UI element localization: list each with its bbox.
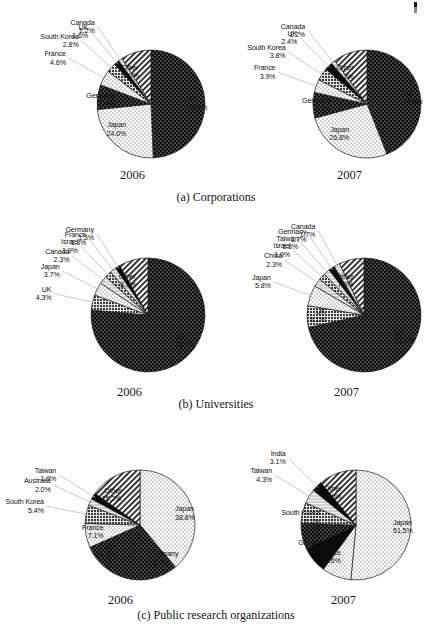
- row-caption: (c) Public research organizations: [0, 608, 432, 623]
- pie-chart-panel: US76.5%UK4.3%Japan3.7%Canada2.3%Israel1.…: [0, 205, 216, 425]
- slice-label-pct: 5.4%: [28, 507, 44, 515]
- slice-label-pct: 15.2%: [102, 495, 122, 503]
- pie-slice-label: Other8.3%: [0, 273, 136, 290]
- pie-slice-label: Germany7.7%: [216, 97, 331, 114]
- slice-label-pct: 6.1%: [310, 316, 326, 324]
- pie-slice-label: Germany7.9%: [216, 539, 327, 556]
- pie-chart-panel: US44.0%Japan26.8%Germany7.7%France3.9%So…: [216, 0, 432, 205]
- slice-label-pct: 8.3%: [120, 281, 136, 289]
- slice-label-pct: 4.3%: [256, 476, 272, 484]
- slice-label-pct: 4.3%: [36, 294, 52, 302]
- slice-label-pct: 8.6%: [325, 557, 341, 565]
- leader-line: [309, 236, 332, 270]
- slice-label-name: Germany: [65, 226, 93, 234]
- row-caption: (a) Corporations: [0, 190, 432, 205]
- slice-label-pct: 13.7%: [95, 551, 115, 559]
- panel-year-label: 2006: [120, 168, 145, 183]
- slice-label-name: Canada: [291, 223, 315, 231]
- pie-slice-label: South Korea6.1%: [216, 509, 320, 526]
- slice-label-pct: 3.1%: [270, 458, 286, 466]
- slice-label-pct: 76.5%: [175, 341, 195, 349]
- pie-slice-label: Other15.2%: [0, 487, 121, 504]
- slice-label-name: UK: [316, 308, 326, 316]
- slice-label-pct: 1.2%: [289, 31, 305, 39]
- slice-label-name: Taiwan: [251, 467, 272, 475]
- slice-label-name: Germany: [86, 92, 114, 100]
- leader-line: [301, 243, 328, 274]
- slice-label-name: Taiwan: [35, 467, 56, 475]
- chart-row: US76.5%UK4.3%Japan3.7%Canada2.3%Israel1.…: [0, 205, 432, 425]
- panel-year-label: 2006: [108, 593, 133, 608]
- slice-label-pct: 2.3%: [54, 256, 70, 264]
- slice-label-pct: 1.2%: [79, 27, 95, 35]
- slice-label-pct: 2.3%: [266, 261, 282, 269]
- slice-label-pct: 44.0%: [403, 98, 423, 106]
- pie-slice-label: Canada1.2%: [0, 19, 95, 36]
- slice-label-pct: 51.5%: [393, 527, 413, 535]
- slice-label-pct: 26.8%: [329, 134, 349, 142]
- slice-label-pct: 10.2%: [334, 73, 354, 81]
- slice-label-name: India: [271, 450, 286, 458]
- pie-slice-label: India3.1%: [216, 450, 286, 467]
- pie-slice-label: UK6.1%: [216, 308, 326, 325]
- pie-slice-label: Other9.0%: [0, 64, 139, 81]
- slice-label-name: France: [44, 50, 65, 58]
- slice-label-name: US: [403, 90, 413, 98]
- slice-label-name: US: [395, 329, 405, 337]
- pie-slice-label: Japan51.5%: [393, 519, 413, 536]
- pie-slice-label: Taiwan1.9%: [0, 467, 56, 484]
- leader-line: [54, 294, 94, 303]
- slice-label-pct: 7.0%: [337, 281, 353, 289]
- slice-label-name: Other: [104, 487, 121, 495]
- pie-slice-label: US44.0%: [403, 90, 423, 107]
- slice-label-pct: 15.7%: [150, 559, 170, 567]
- slice-label-pct: 11.0%: [322, 493, 341, 501]
- slice-label-pct: 7.9%: [311, 547, 327, 555]
- pie-slice-label: US49.3%: [187, 95, 207, 112]
- pie-chart-panel: Japan51.5%France8.6%Germany7.9%US7.5%Sou…: [216, 425, 432, 630]
- panel-year-label: 2007: [331, 593, 356, 608]
- slice-label-pct: 7.7%: [315, 105, 331, 113]
- figure-page: US49.3%Japan24.0%Germany7.4%France4.6%So…: [0, 0, 432, 630]
- pie-slice-label: Canada1.7%: [216, 223, 315, 240]
- pie-slice-label: US71.0%: [395, 329, 415, 346]
- pie-slice-label: Japan26.8%: [216, 126, 349, 143]
- pie-slice-label: Germany7.4%: [0, 92, 115, 109]
- slice-label-name: Other: [121, 64, 138, 72]
- row-caption: (b) Universities: [0, 397, 432, 412]
- slice-label-name: Japan: [330, 126, 349, 134]
- pie-slice-label: South Korea3.8%: [216, 44, 286, 61]
- slice-label-name: Other: [119, 273, 136, 281]
- slice-label-pct: 1.3%: [78, 234, 94, 242]
- slice-label-name: Canada: [70, 19, 94, 27]
- slice-label-pct: 71.0%: [395, 337, 415, 345]
- slice-label-pct: 3.8%: [270, 52, 286, 60]
- slice-label-name: Germany: [302, 97, 330, 105]
- pie-slice-label: US13.7%: [0, 543, 114, 560]
- slice-label-pct: 38.8%: [175, 514, 195, 522]
- slice-label-pct: 1.7%: [299, 231, 315, 239]
- slice-label-name: Canada: [281, 23, 305, 31]
- pie-slice-label: US76.5%: [175, 333, 195, 350]
- slice-label-pct: 24.0%: [106, 130, 126, 138]
- slice-label-pct: 7.4%: [99, 100, 115, 108]
- slice-label-pct: 1.9%: [62, 247, 78, 255]
- pie-slice-label: Germany1.3%: [0, 226, 94, 243]
- slice-label-pct: 9.0%: [123, 72, 139, 80]
- slice-label-pct: 2.8%: [63, 41, 79, 49]
- pie-slice-label: Other10.2%: [216, 64, 353, 81]
- pie-slice-label: Japan38.8%: [175, 505, 195, 522]
- slice-label-name: France: [82, 524, 103, 532]
- leader-line: [47, 506, 88, 514]
- pie-slice-label: Other11.0%: [216, 485, 341, 502]
- pie-chart-panel: US71.0%UK6.1%Japan5.8%China2.3%Israel1.9…: [216, 205, 432, 425]
- slice-label-pct: 1.9%: [274, 251, 290, 259]
- leader-line: [289, 458, 319, 488]
- slice-label-pct: 49.3%: [187, 104, 207, 112]
- slice-label-name: US: [105, 543, 115, 551]
- panel-year-label: 2007: [337, 168, 362, 183]
- slice-label-name: Japan: [107, 121, 126, 129]
- slice-label-pct: 2.4%: [281, 38, 297, 46]
- leader-line: [81, 246, 110, 275]
- pie-chart-panel: Japan38.8%Germany15.7%US13.7%France7.1%S…: [0, 425, 216, 630]
